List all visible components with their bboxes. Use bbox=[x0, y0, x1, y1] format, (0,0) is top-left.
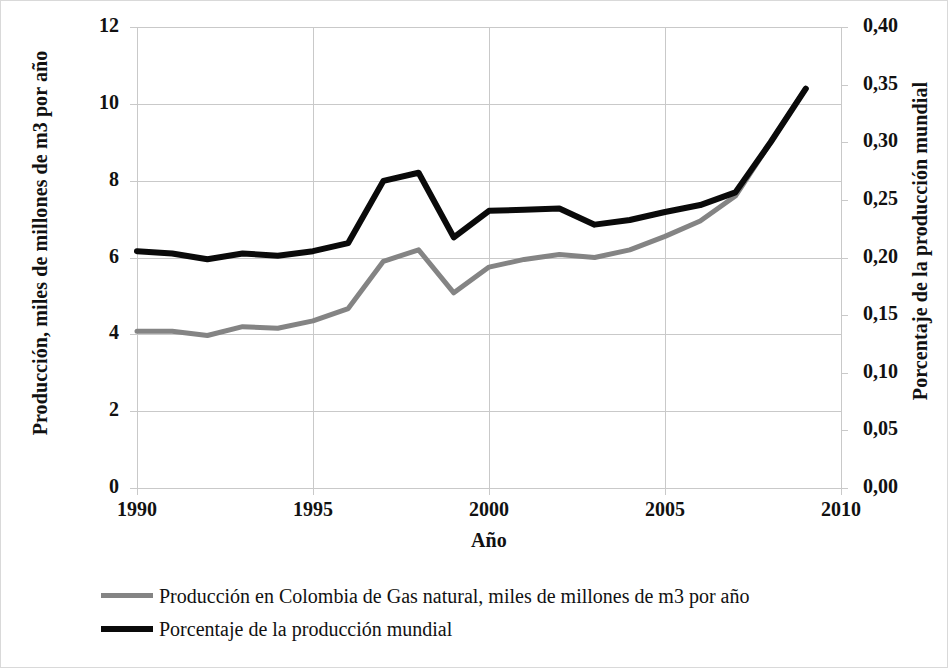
y-axis-left-tick-label: 6 bbox=[59, 245, 119, 268]
series-line-2 bbox=[137, 89, 806, 260]
x-axis-tick-label: 2000 bbox=[444, 498, 534, 521]
x-axis-tick-label: 1990 bbox=[92, 498, 182, 521]
x-axis-title: Año bbox=[137, 529, 841, 552]
legend-line-swatch-icon bbox=[101, 593, 153, 598]
y-axis-left-tick-label: 4 bbox=[59, 321, 119, 344]
chart-page: 0246810120,000,050,100,150,200,250,300,3… bbox=[0, 0, 948, 668]
grid-lines bbox=[137, 27, 842, 489]
x-axis-tick-label: 2005 bbox=[620, 498, 710, 521]
line-chart-figure: 0246810120,000,050,100,150,200,250,300,3… bbox=[1, 1, 948, 668]
y-axis-left-tick-label: 10 bbox=[59, 91, 119, 114]
data-series-lines bbox=[137, 88, 806, 335]
y-axis-right-title: Porcentaje de la producción mundial bbox=[909, 1, 943, 481]
y-axis-left-tick-label: 12 bbox=[59, 14, 119, 37]
y-axis-left-tick-label: 8 bbox=[59, 168, 119, 191]
x-axis-tick-label: 2010 bbox=[796, 498, 886, 521]
y-axis-left-tick-label: 0 bbox=[59, 475, 119, 498]
legend-item[interactable]: Producción en Colombia de Gas natural, m… bbox=[101, 579, 931, 612]
series-line-1 bbox=[137, 88, 806, 335]
legend-line-swatch-icon bbox=[101, 626, 153, 632]
legend-item-label: Producción en Colombia de Gas natural, m… bbox=[159, 586, 749, 606]
chart-plot-svg bbox=[1, 1, 948, 668]
y-axis-left-tick-label: 2 bbox=[59, 398, 119, 421]
legend-item[interactable]: Porcentaje de la producción mundial bbox=[101, 612, 931, 645]
chart-legend: Producción en Colombia de Gas natural, m… bbox=[101, 579, 931, 645]
legend-item-label: Porcentaje de la producción mundial bbox=[159, 619, 452, 639]
x-axis-tick-label: 1995 bbox=[268, 498, 358, 521]
y-axis-left-title: Producción, miles de millones de m3 por … bbox=[29, 0, 63, 493]
